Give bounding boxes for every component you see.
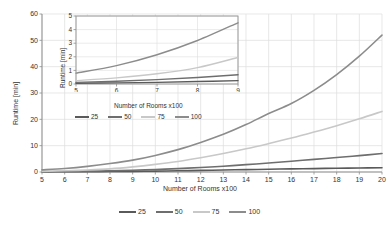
svg-text:13: 13 [219,176,227,183]
svg-text:10: 10 [151,176,159,183]
svg-text:0: 0 [34,168,38,175]
inset-plot-canvas: 56789012345 [57,10,242,92]
svg-text:30: 30 [30,89,38,96]
svg-text:0: 0 [68,80,72,87]
svg-text:19: 19 [355,176,363,183]
inset-legend-item-25[interactable]: 25 [75,113,98,120]
main-x-axis-title: Number of Rooms x100 [163,185,237,192]
svg-text:7: 7 [85,176,89,183]
svg-text:6: 6 [115,87,119,92]
legend-label: 25 [91,113,98,120]
legend-line-swatch [175,116,189,118]
legend-line-swatch [229,211,246,213]
inset-legend-item-75[interactable]: 75 [141,113,164,120]
svg-text:2: 2 [68,53,72,60]
svg-text:60: 60 [30,10,38,17]
svg-text:20: 20 [378,176,386,183]
svg-text:3: 3 [68,39,72,46]
legend-label: 50 [175,208,183,215]
svg-text:10: 10 [30,142,38,149]
svg-text:15: 15 [265,176,273,183]
svg-text:17: 17 [310,176,318,183]
svg-text:7: 7 [155,87,159,92]
legend-item-75[interactable]: 75 [193,208,220,215]
inset-legend: 255075100 [75,113,209,120]
svg-text:50: 50 [30,37,38,44]
chart-figure: 5678910111213141516171819200102030405060… [0,0,392,236]
svg-text:8: 8 [108,176,112,183]
svg-text:18: 18 [333,176,341,183]
legend-item-100[interactable]: 100 [229,208,260,215]
legend-line-swatch [141,116,155,118]
svg-text:9: 9 [131,176,135,183]
legend-label: 50 [124,113,131,120]
svg-text:8: 8 [196,87,200,92]
legend-line-swatch [193,211,210,213]
legend-label: 25 [138,208,146,215]
svg-text:14: 14 [242,176,250,183]
svg-text:12: 12 [197,176,205,183]
legend-label: 100 [248,208,260,215]
svg-text:20: 20 [30,116,38,123]
inset-legend-item-50[interactable]: 50 [108,113,131,120]
legend-label: 75 [212,208,220,215]
svg-text:5: 5 [40,176,44,183]
legend-item-50[interactable]: 50 [156,208,183,215]
legend-label: 75 [157,113,164,120]
legend-line-swatch [75,116,89,118]
inset-x-axis-title: Number of Rooms x100 [114,102,183,109]
legend-item-25[interactable]: 25 [119,208,146,215]
svg-text:11: 11 [174,176,181,183]
chart-legend: 255075100 [119,208,267,215]
legend-label: 100 [191,113,202,120]
svg-text:40: 40 [30,63,38,70]
svg-text:4: 4 [68,26,72,33]
svg-text:9: 9 [236,87,240,92]
inset-plot: 56789012345 [57,10,242,92]
svg-text:1: 1 [68,67,72,74]
inset-legend-item-100[interactable]: 100 [175,113,202,120]
legend-line-swatch [119,211,136,213]
main-y-axis-title: Runtime [min] [12,82,19,125]
legend-line-swatch [108,116,122,118]
svg-text:6: 6 [63,176,67,183]
svg-text:5: 5 [68,12,72,19]
legend-line-swatch [156,211,173,213]
svg-text:5: 5 [74,87,78,92]
svg-text:16: 16 [287,176,295,183]
inset-y-axis-title: Runtime [min] [59,48,66,88]
